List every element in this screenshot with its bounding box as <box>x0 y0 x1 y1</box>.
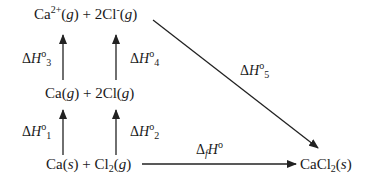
text: ) <box>126 156 131 172</box>
species-middle: Ca(g) + 2Cl(g) <box>45 86 134 101</box>
h: H <box>31 51 41 66</box>
label-dHf: ΔfHo <box>196 143 223 157</box>
index: 1 <box>46 130 51 141</box>
text: Ca( <box>46 156 68 172</box>
index: 4 <box>154 57 159 68</box>
h: H <box>139 124 149 139</box>
text: ) + Cl <box>74 156 109 172</box>
delta: Δ <box>22 51 31 66</box>
species-product: CaCl2(s) <box>300 157 352 172</box>
delta: Δ <box>240 63 249 78</box>
standard-symbol: o <box>218 139 223 150</box>
h: H <box>208 142 218 157</box>
delta: Δ <box>196 142 205 157</box>
delta: Δ <box>130 51 139 66</box>
phase-g: g <box>125 6 133 22</box>
index: 5 <box>264 69 269 80</box>
cl-ion: + 2Cl <box>79 6 117 22</box>
text: Ca( <box>45 85 67 101</box>
label-dH1: ΔHo1 <box>22 125 51 139</box>
delta: Δ <box>22 124 31 139</box>
phase-g: g <box>66 6 74 22</box>
label-dH3: ΔHo3 <box>22 52 51 66</box>
charge-2plus: 2+ <box>51 4 62 15</box>
delta: Δ <box>130 124 139 139</box>
species-bottom: Ca(s) + Cl2(g) <box>46 157 131 172</box>
label-dH5: ΔHo5 <box>240 64 269 78</box>
label-dH4: ΔHo4 <box>130 52 159 66</box>
h: H <box>249 63 259 78</box>
text: ) + 2Cl( <box>74 85 122 101</box>
label-dH2: ΔHo2 <box>130 125 159 139</box>
text: ) <box>347 156 352 172</box>
text: CaCl <box>300 156 331 172</box>
index: 2 <box>154 130 159 141</box>
ca-ion: Ca <box>34 6 51 22</box>
species-top: Ca2+(g) + 2Cl-(g) <box>34 7 137 22</box>
h: H <box>31 124 41 139</box>
text: ) <box>129 85 134 101</box>
charge-minus: - <box>116 4 119 15</box>
index: 3 <box>46 57 51 68</box>
h: H <box>139 51 149 66</box>
arrow-dH5 <box>153 20 318 148</box>
